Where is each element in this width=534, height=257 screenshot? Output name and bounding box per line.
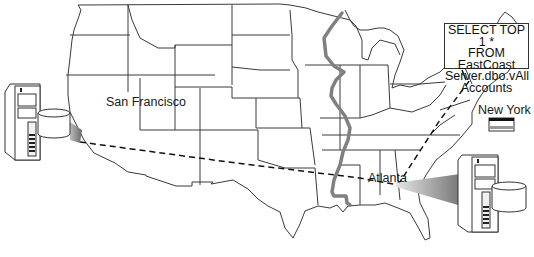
sf-server-icon: [5, 84, 70, 160]
diagram-canvas: San Francisco Atlanta New York SELECT TO…: [0, 0, 534, 257]
query-line-2: FROM EastCoast: [445, 48, 528, 71]
label-atlanta: Atlanta: [368, 172, 407, 185]
connection-line: [80, 142, 398, 185]
query-box: SELECT TOP 1 * FROM EastCoast Server.dbo…: [444, 23, 529, 69]
new-york-flag-icon: [489, 118, 514, 131]
label-san-francisco: San Francisco: [106, 96, 186, 109]
label-new-york: New York: [478, 104, 531, 117]
query-line-1: SELECT TOP 1 *: [445, 25, 528, 48]
mississippi-river: [324, 13, 350, 205]
atlanta-server-icon: [458, 155, 526, 232]
query-line-4: Accounts: [445, 83, 528, 95]
sf-beam: [70, 122, 82, 143]
